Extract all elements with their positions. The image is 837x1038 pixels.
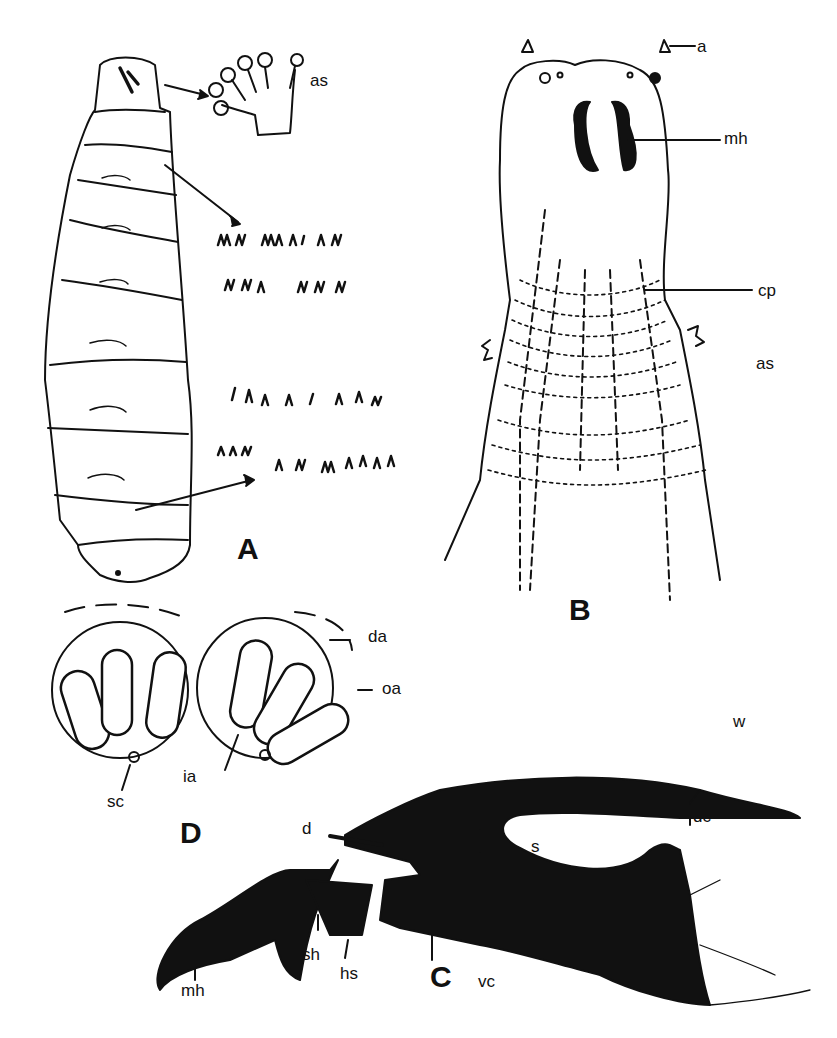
label-b-mh: mh — [724, 130, 748, 147]
label-c-vc: vc — [478, 973, 495, 990]
panel-letter-d: D — [180, 818, 202, 848]
label-b-cp: cp — [758, 282, 776, 299]
anterior-spiracle-inset-drawing — [209, 53, 303, 135]
label-d-oa: oa — [382, 680, 401, 697]
label-c-dc-right: dc — [693, 808, 711, 825]
cephalopharyngeal-skeleton-drawing — [157, 778, 810, 1005]
spine-rows — [218, 235, 394, 472]
panel-letter-c: C — [430, 962, 452, 992]
label-c-dc: dc — [479, 819, 497, 836]
label-c-ps: ps — [480, 855, 498, 872]
label-c-mh: mh — [181, 982, 205, 999]
figure-drawing — [0, 0, 837, 1038]
label-c-hs: hs — [340, 965, 358, 982]
label-b-as: as — [756, 355, 774, 372]
label-c-w-upper: w — [733, 713, 745, 730]
label-c-w-lower: w — [530, 888, 542, 905]
panel-letter-a: A — [237, 534, 259, 564]
posterior-spiracles-drawing — [52, 604, 372, 790]
label-d-sc: sc — [107, 793, 124, 810]
label-d-da: da — [368, 628, 387, 645]
panel-letter-b: B — [569, 595, 591, 625]
larva-body-drawing — [45, 58, 192, 582]
label-c-d: d — [302, 820, 311, 837]
label-b-a: a — [697, 38, 706, 55]
cephalic-segment-drawing — [445, 40, 752, 600]
label-d-ia: ia — [183, 768, 196, 785]
label-a-as: as — [310, 72, 328, 89]
label-c-s: s — [531, 838, 540, 855]
anatomy-figure: A B C D as a mh cp as da oa ia sc d ps s… — [0, 0, 837, 1038]
label-c-sh: sh — [302, 946, 320, 963]
